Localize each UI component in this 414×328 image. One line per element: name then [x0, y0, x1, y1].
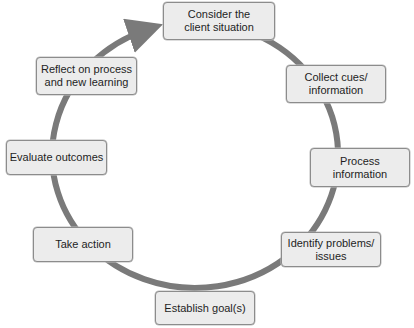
- step-label: Identify problems/ issues: [288, 237, 375, 263]
- step-label: Consider the client situation: [184, 8, 254, 34]
- step-reflect-on-process: Reflect on process and new learning: [36, 57, 137, 95]
- step-evaluate-outcomes: Evaluate outcomes: [6, 140, 107, 175]
- step-label: Evaluate outcomes: [10, 151, 104, 164]
- step-label: Process information: [333, 155, 387, 181]
- step-identify-problems: Identify problems/ issues: [281, 232, 381, 267]
- step-establish-goals: Establish goal(s): [155, 291, 255, 325]
- step-label: Establish goal(s): [164, 302, 245, 315]
- step-label: Collect cues/ information: [305, 71, 368, 97]
- step-take-action: Take action: [33, 227, 133, 262]
- step-label: Reflect on process and new learning: [41, 63, 132, 89]
- step-label: Take action: [55, 238, 111, 251]
- step-process-information: Process information: [310, 148, 410, 187]
- step-consider-client-situation: Consider the client situation: [163, 2, 275, 40]
- step-collect-cues: Collect cues/ information: [286, 65, 386, 103]
